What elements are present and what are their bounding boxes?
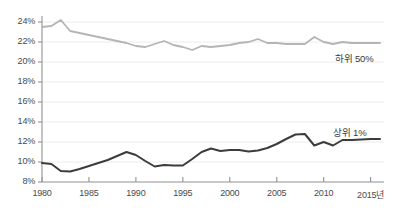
- x-tick-label: 2015년: [348, 188, 394, 201]
- y-tick-label: 8%: [3, 176, 35, 186]
- x-tick-label: 1980: [19, 188, 65, 198]
- x-tick-label: 1995: [160, 188, 206, 198]
- x-tick-label: 2010: [301, 188, 347, 198]
- plot-area: [0, 0, 395, 216]
- y-tick-label: 14%: [3, 116, 35, 126]
- x-tick-label: 1990: [113, 188, 159, 198]
- series-line-top1: [42, 134, 380, 172]
- income-share-line-chart: 8%10%12%14%16%18%20%22%24% 1980198519901…: [0, 0, 395, 216]
- series-line-bottom50: [42, 20, 380, 50]
- axis-lines: [42, 16, 384, 182]
- series-lines: [42, 20, 380, 172]
- y-tick-label: 22%: [3, 36, 35, 46]
- y-tick-label: 12%: [3, 136, 35, 146]
- series-label-top1: 상위 1%: [333, 125, 366, 139]
- x-tick-label: 2000: [207, 188, 253, 198]
- y-tick-label: 10%: [3, 156, 35, 166]
- y-tick-label: 20%: [3, 56, 35, 66]
- y-tick-label: 16%: [3, 96, 35, 106]
- y-tick-label: 18%: [3, 76, 35, 86]
- x-tick-label: 1985: [66, 188, 112, 198]
- y-tick-label: 24%: [3, 16, 35, 26]
- x-tick-label: 2005: [254, 188, 300, 198]
- series-label-bottom50: 하위 50%: [335, 51, 373, 65]
